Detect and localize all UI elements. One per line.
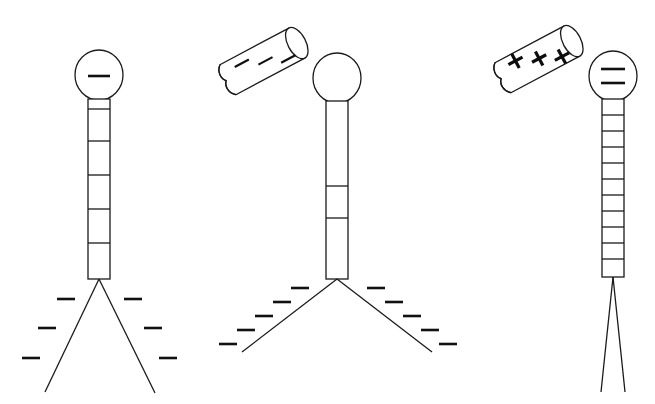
figure-root: Three line drawings of an electroscope. … [0,0,655,404]
panel-1-stem [88,99,110,279]
panel-2-head-circle [313,53,361,103]
panel-2-stem [326,101,348,279]
panel-3-head-circle [589,51,637,101]
electroscope-diagram [0,0,655,404]
panel-3-stem [602,99,624,277]
